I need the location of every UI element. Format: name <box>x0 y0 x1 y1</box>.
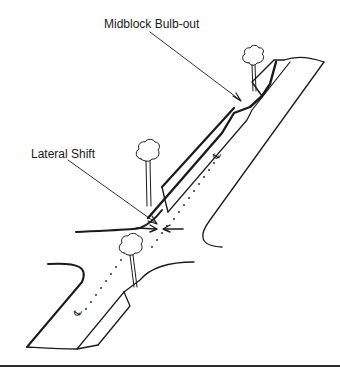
leader-bulb-out <box>150 32 240 100</box>
upper-left-curb <box>148 62 276 218</box>
bulb-out-far-edge <box>284 58 324 62</box>
lower-left-curb <box>27 264 84 347</box>
traffic-calming-diagram: ℄ ℄ Midblock Bulb-out Lateral Shift <box>0 0 340 367</box>
lateral-shift-label: Lateral Shift <box>31 148 95 160</box>
tree-top-trunk <box>252 65 256 91</box>
tree-low-canopy <box>119 233 142 255</box>
lower-bottom-edge <box>27 345 98 349</box>
shift-arrow-left <box>137 228 156 229</box>
tree-low-trunk <box>130 255 137 287</box>
centerline-symbol-upper: ℄ <box>210 149 224 161</box>
tree-mid-trunk <box>146 161 151 206</box>
lower-lane-edge <box>77 292 124 349</box>
centerline-dots <box>85 162 215 310</box>
tree-mid-canopy <box>136 139 159 161</box>
upper-left-lane-edge <box>168 62 290 212</box>
tree-top-canopy <box>243 45 264 65</box>
centerline-symbol-lower: ℄ <box>71 306 85 318</box>
midblock-bulb-out-label: Midblock Bulb-out <box>104 18 199 30</box>
street-sketch: ℄ ℄ <box>0 0 340 367</box>
leader-lateral-shift <box>68 160 156 223</box>
